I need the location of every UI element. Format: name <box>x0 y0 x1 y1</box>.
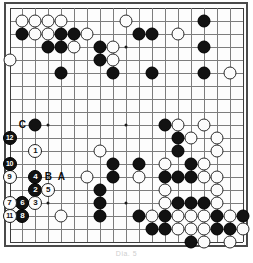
white-stone[interactable] <box>3 53 16 66</box>
black-stone[interactable] <box>184 196 197 209</box>
numbered-move-stone-11[interactable]: 11 <box>3 209 17 223</box>
black-stone[interactable] <box>16 27 29 40</box>
black-stone[interactable] <box>171 144 184 157</box>
black-stone[interactable] <box>184 157 197 170</box>
numbered-move-stone-12[interactable]: 12 <box>3 131 17 145</box>
white-stone[interactable] <box>210 170 223 183</box>
numbered-move-stone-10[interactable]: 10 <box>3 157 17 171</box>
white-stone[interactable] <box>223 235 236 248</box>
white-stone[interactable] <box>158 196 171 209</box>
white-stone[interactable] <box>184 209 197 222</box>
black-stone[interactable] <box>158 170 171 183</box>
white-stone[interactable] <box>236 222 249 235</box>
black-stone[interactable] <box>94 196 107 209</box>
white-stone[interactable] <box>94 144 107 157</box>
black-stone[interactable] <box>197 14 210 27</box>
black-stone[interactable] <box>94 53 107 66</box>
black-stone[interactable] <box>171 196 184 209</box>
white-stone[interactable] <box>29 27 42 40</box>
black-stone[interactable] <box>158 118 171 131</box>
black-stone[interactable] <box>197 40 210 53</box>
white-stone[interactable] <box>42 27 55 40</box>
black-stone[interactable] <box>184 235 197 248</box>
go-board-grid: 123456789101112ABC <box>6 4 246 245</box>
black-stone[interactable] <box>223 222 236 235</box>
white-stone[interactable] <box>120 14 133 27</box>
black-stone[interactable] <box>55 66 68 79</box>
white-stone[interactable] <box>81 27 94 40</box>
go-board[interactable]: 123456789101112ABC <box>4 2 248 247</box>
numbered-move-stone-4[interactable]: 4 <box>28 170 42 184</box>
black-stone[interactable] <box>55 40 68 53</box>
numbered-move-stone-7[interactable]: 7 <box>3 196 17 210</box>
black-stone[interactable] <box>236 209 249 222</box>
black-stone[interactable] <box>145 66 158 79</box>
white-stone[interactable] <box>55 209 68 222</box>
black-stone[interactable] <box>197 66 210 79</box>
grid-line-vertical <box>87 8 88 242</box>
white-stone[interactable] <box>81 170 94 183</box>
white-stone[interactable] <box>184 222 197 235</box>
white-stone[interactable] <box>42 14 55 27</box>
white-stone[interactable] <box>29 14 42 27</box>
white-stone[interactable] <box>16 14 29 27</box>
black-stone[interactable] <box>132 209 145 222</box>
black-stone[interactable] <box>210 209 223 222</box>
black-stone[interactable] <box>55 27 68 40</box>
white-stone[interactable] <box>197 170 210 183</box>
white-stone[interactable] <box>210 144 223 157</box>
white-stone[interactable] <box>171 27 184 40</box>
black-stone[interactable] <box>94 209 107 222</box>
numbered-move-stone-8[interactable]: 8 <box>15 209 29 223</box>
white-stone[interactable] <box>197 222 210 235</box>
white-stone[interactable] <box>210 196 223 209</box>
black-stone[interactable] <box>145 222 158 235</box>
white-stone[interactable] <box>210 183 223 196</box>
black-stone[interactable] <box>158 209 171 222</box>
black-stone[interactable] <box>42 40 55 53</box>
black-stone[interactable] <box>29 118 42 131</box>
black-stone[interactable] <box>171 170 184 183</box>
black-stone[interactable] <box>68 27 81 40</box>
black-stone[interactable] <box>132 27 145 40</box>
white-stone[interactable] <box>68 40 81 53</box>
white-stone[interactable] <box>171 118 184 131</box>
black-stone[interactable] <box>210 222 223 235</box>
black-stone[interactable] <box>184 170 197 183</box>
white-stone[interactable] <box>197 157 210 170</box>
numbered-move-stone-3[interactable]: 3 <box>28 196 42 210</box>
white-stone[interactable] <box>197 235 210 248</box>
black-stone[interactable] <box>107 170 120 183</box>
black-stone[interactable] <box>197 196 210 209</box>
white-stone[interactable] <box>184 131 197 144</box>
numbered-move-stone-2[interactable]: 2 <box>28 183 42 197</box>
white-stone[interactable] <box>210 131 223 144</box>
black-stone[interactable] <box>171 131 184 144</box>
white-stone[interactable] <box>107 40 120 53</box>
black-stone[interactable] <box>132 157 145 170</box>
black-stone[interactable] <box>145 27 158 40</box>
white-stone[interactable] <box>158 157 171 170</box>
white-stone[interactable] <box>171 209 184 222</box>
numbered-move-stone-1[interactable]: 1 <box>28 144 42 158</box>
black-stone[interactable] <box>158 222 171 235</box>
white-stone[interactable] <box>223 209 236 222</box>
white-stone[interactable] <box>197 118 210 131</box>
white-stone[interactable] <box>158 183 171 196</box>
black-stone[interactable] <box>94 40 107 53</box>
star-point <box>47 123 50 126</box>
numbered-move-stone-9[interactable]: 9 <box>3 170 17 184</box>
white-stone[interactable] <box>171 222 184 235</box>
white-stone[interactable] <box>55 14 68 27</box>
numbered-move-stone-6[interactable]: 6 <box>15 196 29 210</box>
white-stone[interactable] <box>197 209 210 222</box>
white-stone[interactable] <box>132 170 145 183</box>
white-stone[interactable] <box>107 53 120 66</box>
numbered-move-stone-5[interactable]: 5 <box>41 183 55 197</box>
black-stone[interactable] <box>107 157 120 170</box>
grid-line-vertical <box>243 8 244 242</box>
black-stone[interactable] <box>94 183 107 196</box>
black-stone[interactable] <box>107 66 120 79</box>
white-stone[interactable] <box>223 66 236 79</box>
white-stone[interactable] <box>145 209 158 222</box>
